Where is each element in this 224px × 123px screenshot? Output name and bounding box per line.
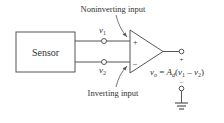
v2-terminal (102, 60, 107, 65)
v1-label: v1 (99, 25, 106, 36)
output-minus-sign: – (179, 78, 184, 86)
op-amp-diagram: Sensor v1 v2 + – + vo = Ad(v1 – v2) – No… (0, 0, 224, 123)
output-plus-sign: + (180, 56, 184, 64)
v2-label: v2 (99, 65, 106, 76)
sensor-label: Sensor (32, 47, 60, 58)
ground-icon (175, 103, 188, 109)
output-terminal (179, 49, 184, 54)
plus-input-sign: + (133, 38, 138, 47)
inverting-input-label: Inverting input (88, 88, 139, 98)
output-equation: vo = Ad(v1 – v2) (150, 67, 204, 78)
v1-terminal (102, 39, 107, 44)
ground-terminal (179, 86, 184, 91)
noninverting-input-label: Noninverting input (81, 4, 147, 14)
